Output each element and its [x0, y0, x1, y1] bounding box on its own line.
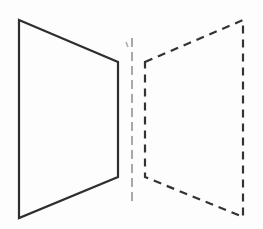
reflected-trapezoid — [145, 20, 243, 217]
diagram-canvas — [0, 0, 263, 229]
reflection-diagram — [0, 0, 263, 229]
axis-tick-mark — [126, 42, 128, 47]
original-trapezoid — [19, 20, 118, 218]
